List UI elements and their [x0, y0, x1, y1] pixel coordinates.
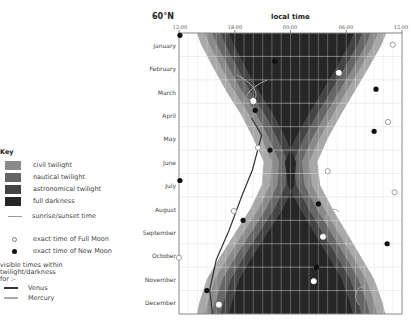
new-moon-marker	[253, 108, 258, 113]
legend-mercury: Mercury	[0, 293, 150, 303]
full-moon-marker	[390, 42, 395, 47]
full-moon-marker	[325, 169, 330, 174]
new-moon-marker	[177, 178, 182, 183]
legend-astronomical-label: astronomical twilight	[33, 185, 101, 193]
visible-times-note: visible times within twilight/darkness f…	[0, 262, 150, 283]
civil-swatch	[5, 161, 21, 170]
legend-darkness-label: full darkness	[33, 197, 75, 205]
new-moon-marker	[372, 129, 377, 134]
legend-venus: Venus	[0, 283, 150, 293]
nautical-swatch	[5, 173, 21, 182]
legend-title: Key	[0, 148, 150, 156]
legend-venus-label: Venus	[28, 284, 48, 292]
full-moon-marker	[311, 279, 316, 284]
legend-civil-label: civil twilight	[33, 161, 72, 169]
visible-line-3: for :-	[0, 276, 150, 283]
full-moon-marker	[255, 145, 260, 150]
new-moon-marker	[204, 288, 209, 293]
legend-astronomical: astronomical twilight	[0, 183, 150, 195]
full-moon-marker	[385, 119, 390, 124]
legend-full-moon-label: exact time of Full Moon	[33, 235, 109, 243]
legend-new-moon: exact time of New Moon	[0, 245, 150, 257]
mercury-line-icon	[4, 297, 18, 299]
full-moon-icon	[12, 237, 17, 242]
darkness-swatch	[5, 197, 21, 206]
new-moon-marker	[314, 265, 319, 270]
legend-nautical-label: nautical twilight	[33, 173, 85, 181]
sunrise-line-icon	[8, 216, 22, 217]
legend-new-moon-label: exact time of New Moon	[33, 247, 112, 255]
full-moon-marker	[320, 234, 325, 239]
astronomical-swatch	[5, 185, 21, 194]
legend-mercury-label: Mercury	[28, 294, 54, 302]
new-moon-marker	[177, 33, 182, 38]
new-moon-marker	[267, 147, 272, 152]
new-moon-marker	[385, 241, 390, 246]
new-moon-marker	[241, 218, 246, 223]
full-moon-marker	[216, 302, 221, 307]
new-moon-marker	[373, 87, 378, 92]
full-moon-marker	[392, 190, 397, 195]
new-moon-icon	[12, 249, 17, 254]
legend-sunrise: sunrise/sunset time	[0, 210, 150, 222]
venus-line-icon	[4, 287, 18, 289]
new-moon-marker	[316, 201, 321, 206]
legend-darkness: full darkness	[0, 195, 150, 207]
legend-nautical: nautical twilight	[0, 171, 150, 183]
legend-sunrise-label: sunrise/sunset time	[32, 212, 96, 220]
visible-line-2: twilight/darkness	[0, 269, 150, 276]
full-moon-marker	[231, 208, 236, 213]
new-moon-marker	[272, 59, 277, 64]
full-moon-marker	[251, 98, 256, 103]
legend: Key civil twilight nautical twilight ast…	[0, 148, 150, 303]
full-moon-marker	[176, 255, 181, 260]
full-moon-marker	[336, 70, 341, 75]
legend-full-moon: exact time of Full Moon	[0, 233, 150, 245]
legend-civil: civil twilight	[0, 159, 150, 171]
